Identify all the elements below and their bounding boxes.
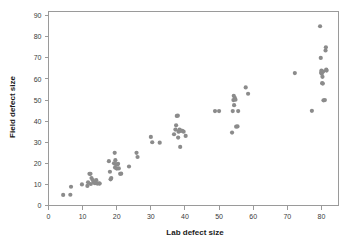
data-point	[310, 109, 314, 113]
data-point	[232, 103, 236, 107]
y-tick-label: 0	[38, 202, 42, 209]
y-tick-label: 40	[34, 118, 42, 125]
data-point	[172, 132, 176, 136]
x-tick-label: 40	[181, 213, 189, 220]
x-tick-label: 30	[147, 213, 155, 220]
data-point	[293, 71, 297, 75]
x-tick-label: 70	[283, 213, 291, 220]
data-point	[230, 130, 234, 134]
data-point	[233, 98, 237, 102]
data-point	[119, 172, 123, 176]
x-tick-label: 10	[79, 213, 87, 220]
y-tick-label: 50	[34, 97, 42, 104]
data-point	[135, 155, 139, 159]
data-point	[149, 135, 153, 139]
y-axis-title: Field defect size	[8, 76, 17, 138]
y-tick-label: 10	[34, 181, 42, 188]
data-point	[246, 92, 250, 96]
data-point	[117, 166, 121, 170]
data-point	[213, 109, 217, 113]
chart-background	[0, 0, 351, 243]
data-point	[88, 172, 92, 176]
y-tick-label: 70	[34, 54, 42, 61]
data-point	[113, 151, 117, 155]
data-point	[158, 141, 162, 145]
data-point	[116, 162, 120, 166]
data-point	[178, 145, 182, 149]
data-point	[324, 68, 328, 72]
data-point	[184, 134, 188, 138]
data-point	[107, 159, 111, 163]
data-point	[318, 24, 322, 28]
data-point	[80, 182, 84, 186]
data-point	[236, 109, 240, 113]
data-point	[231, 109, 235, 113]
y-tick-label: 90	[34, 12, 42, 19]
y-tick-label: 30	[34, 139, 42, 146]
data-point	[113, 158, 117, 162]
x-tick-label: 20	[113, 213, 121, 220]
data-point	[109, 176, 113, 180]
data-point	[319, 56, 323, 60]
data-point	[235, 124, 239, 128]
data-point	[244, 85, 248, 89]
scatter-chart: 01020304050607080 0102030405060708090 La…	[0, 0, 351, 243]
x-tick-label: 50	[215, 213, 223, 220]
data-point	[176, 136, 180, 140]
data-point	[182, 130, 186, 134]
data-point	[68, 193, 72, 197]
data-point	[69, 185, 73, 189]
y-tick-label: 60	[34, 76, 42, 83]
data-point	[320, 75, 324, 79]
data-point	[176, 114, 180, 118]
data-point	[321, 82, 325, 86]
y-tick-label: 80	[34, 33, 42, 40]
data-point	[323, 98, 327, 102]
x-axis-title: Lab defect size	[166, 228, 224, 237]
data-point	[150, 140, 154, 144]
x-tick-label: 80	[318, 213, 326, 220]
x-tick-label: 0	[47, 213, 51, 220]
data-point	[134, 151, 138, 155]
y-tick-label: 20	[34, 160, 42, 167]
chart-canvas: 01020304050607080 0102030405060708090 La…	[0, 0, 351, 243]
data-point	[174, 123, 178, 127]
x-tick-label: 60	[249, 213, 257, 220]
data-point	[127, 164, 131, 168]
data-point	[98, 181, 102, 185]
data-point	[324, 45, 328, 49]
data-point	[61, 193, 65, 197]
data-point	[217, 109, 221, 113]
data-point	[108, 170, 112, 174]
